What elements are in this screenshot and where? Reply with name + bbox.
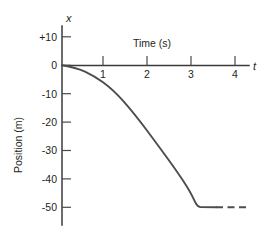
y-axis-tick-labels: +10 0 -10 -20 -30 -40 -50: [39, 31, 57, 214]
y-tick-label: +10: [39, 31, 57, 43]
position-curve: [62, 65, 216, 207]
x-tick-label: 1: [100, 68, 106, 80]
y-axis-symbol-label: x: [65, 12, 72, 24]
x-tick-label: 2: [144, 68, 150, 80]
y-axis-ticks: [62, 37, 71, 208]
y-tick-label: 0: [51, 59, 57, 71]
y-tick-label: -10: [42, 88, 57, 100]
x-tick-label: 4: [232, 68, 238, 80]
chart-canvas: x t +10 0 -10 -20 -30 -40 -50: [0, 0, 274, 237]
position-vs-time-chart: x t +10 0 -10 -20 -30 -40 -50: [0, 0, 274, 237]
x-axis-title: Time (s): [133, 37, 171, 49]
y-axis-title: Position (m): [12, 117, 24, 173]
y-tick-label: -50: [42, 201, 57, 213]
y-tick-label: -30: [42, 144, 57, 156]
x-tick-label: 3: [188, 68, 194, 80]
x-axis-symbol-label: t: [253, 60, 257, 72]
y-tick-label: -20: [42, 116, 57, 128]
x-axis-ticks: [103, 56, 235, 66]
y-tick-label: -40: [42, 173, 57, 185]
x-axis-tick-labels: 1 2 3 4: [100, 68, 238, 80]
